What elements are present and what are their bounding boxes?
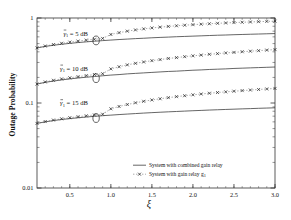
y-tick-label: 0.01 — [22, 184, 33, 191]
circle-highlight — [93, 74, 99, 83]
y-tick-label: 0.1 — [26, 99, 34, 106]
x-tick-label: 1.5 — [148, 191, 156, 198]
chart-legend: System with combined gain relaySystem wi… — [133, 162, 223, 178]
svg-text:γ1 = 15 dB: γ1 = 15 dB — [60, 99, 88, 108]
chart-canvas: 0.010.11 0.51.01.52.02.53.0 γ1 = 5 dBγ1 … — [0, 0, 291, 220]
circle-highlight — [93, 36, 99, 45]
x-tick-label: 2.5 — [230, 191, 238, 198]
legend-swatch-dashed — [133, 173, 146, 176]
gamma-annotation: γ1 = 15 dB — [0, 0, 88, 108]
x-tick-label: 1.0 — [107, 191, 115, 198]
svg-text:γ1 = 5 dB: γ1 = 5 dB — [63, 30, 88, 39]
x-tick-label: 0.5 — [66, 191, 74, 198]
legend-label-gain-relay: System with gain relay g1 — [149, 171, 206, 178]
y-tick-label: 1 — [30, 14, 33, 21]
gamma-annotation: γ1 = 5 dB — [0, 0, 88, 38]
circle-highlight — [93, 114, 99, 123]
x-tick-label: 2.0 — [189, 191, 197, 198]
series-line-solid — [37, 108, 275, 124]
curve-annotations: γ1 = 5 dBγ1 = 10 dBγ1 = 15 dB — [0, 0, 88, 108]
circle-annotations — [93, 36, 99, 122]
legend-label-combined: System with combined gain relay — [149, 162, 223, 168]
x-tick-label: 3.0 — [271, 191, 279, 198]
svg-text:γ1 = 10 dB: γ1 = 10 dB — [60, 65, 88, 74]
outage-probability-figure: Outage Probability ξ 0.010.11 0.51.01.52… — [0, 0, 291, 220]
